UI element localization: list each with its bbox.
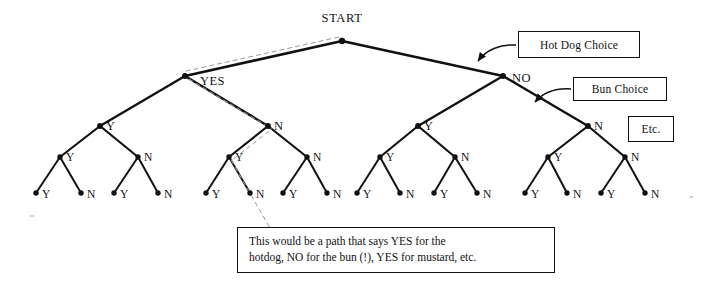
label-l3-0: Y xyxy=(66,151,75,163)
node-leaf-0 xyxy=(33,190,38,195)
dash-start-yes xyxy=(182,37,339,72)
node-l2-0 xyxy=(97,123,103,129)
node-leaf-13 xyxy=(564,190,569,195)
node-l3-5 xyxy=(452,154,457,159)
callout-hot-dog-label: Hot Dog Choice xyxy=(540,39,618,51)
start-label: START xyxy=(322,11,363,25)
node-l2-3 xyxy=(585,123,591,129)
label-leaf-0: Y xyxy=(42,188,51,200)
node-leaf-6 xyxy=(280,190,285,195)
node-l2-2 xyxy=(415,123,421,129)
scan-speck-left xyxy=(30,215,34,217)
node-leaf-8 xyxy=(354,190,359,195)
edge-yes-n xyxy=(185,76,268,126)
label-leaf-11: N xyxy=(483,188,492,200)
edge-start-no xyxy=(342,41,503,76)
node-leaf-1 xyxy=(78,190,83,195)
label-leaf-9: N xyxy=(406,188,415,200)
callout-etc-label: Etc. xyxy=(642,123,661,135)
label-l3-5: N xyxy=(461,151,470,163)
node-l3-4 xyxy=(377,154,382,159)
node-leaf-3 xyxy=(155,190,160,195)
label-l3-3: N xyxy=(313,151,322,163)
callout-bun-label: Bun Choice xyxy=(592,83,649,95)
node-leaf-4 xyxy=(203,190,208,195)
node-leaf-10 xyxy=(431,190,436,195)
node-leaf-5 xyxy=(247,190,252,195)
diagram-canvas: START YES NO Y N Y N Y N Y N Y N Y N Y N… xyxy=(0,0,710,291)
node-leaf-2 xyxy=(111,190,116,195)
node-leaf-9 xyxy=(397,190,402,195)
label-no: NO xyxy=(512,71,531,85)
edge-start-yes xyxy=(185,41,342,76)
label-l3-4: Y xyxy=(386,151,395,163)
label-leaf-7: N xyxy=(333,188,342,200)
path-annotation-box: This would be a path that says YES for t… xyxy=(237,227,555,273)
node-l3-7 xyxy=(622,154,627,159)
arrow-hot-dog-choice xyxy=(478,45,516,61)
node-leaf-11 xyxy=(474,190,479,195)
label-yes: YES xyxy=(200,74,225,88)
label-leaf-8: Y xyxy=(363,188,372,200)
tree-edges xyxy=(36,41,645,193)
label-leaf-15: N xyxy=(651,188,660,200)
node-l3-6 xyxy=(545,154,550,159)
label-leaf-10: Y xyxy=(440,188,449,200)
label-l2-0: Y xyxy=(106,119,115,133)
label-leaf-14: Y xyxy=(607,188,616,200)
node-l2-1 xyxy=(265,123,271,129)
label-l3-6: Y xyxy=(554,151,563,163)
label-leaf-1: N xyxy=(87,188,96,200)
label-l3-7: N xyxy=(631,151,640,163)
label-l2-3: N xyxy=(594,119,603,133)
node-no xyxy=(500,73,506,79)
node-leaf-15 xyxy=(642,190,647,195)
node-leaf-14 xyxy=(598,190,603,195)
annotation-line-1: This would be a path that says YES for t… xyxy=(249,233,554,249)
node-l3-2 xyxy=(226,154,231,159)
node-start xyxy=(339,38,345,44)
annotation-line-2: hotdog, NO for the bun (!), YES for must… xyxy=(249,249,554,265)
node-l3-1 xyxy=(135,154,140,159)
label-leaf-13: N xyxy=(573,188,582,200)
scan-speck-right xyxy=(690,196,693,198)
node-yes xyxy=(182,73,188,79)
arrow-bun-choice xyxy=(535,89,571,102)
label-leaf-4: Y xyxy=(212,188,221,200)
label-leaf-12: Y xyxy=(531,188,540,200)
node-leaf-7 xyxy=(324,190,329,195)
callout-bun-choice: Bun Choice xyxy=(573,77,667,101)
label-l2-1: N xyxy=(274,119,283,133)
callout-hot-dog-choice: Hot Dog Choice xyxy=(518,31,640,58)
node-l3-3 xyxy=(304,154,309,159)
callout-etc: Etc. xyxy=(628,116,674,142)
label-leaf-5: N xyxy=(256,188,265,200)
label-leaf-3: N xyxy=(164,188,173,200)
node-leaf-12 xyxy=(522,190,527,195)
label-l3-1: N xyxy=(144,151,153,163)
label-l3-2: Y xyxy=(235,151,244,163)
label-leaf-2: Y xyxy=(120,188,129,200)
label-l2-2: Y xyxy=(424,119,433,133)
node-l3-0 xyxy=(57,154,62,159)
label-leaf-6: Y xyxy=(289,188,298,200)
